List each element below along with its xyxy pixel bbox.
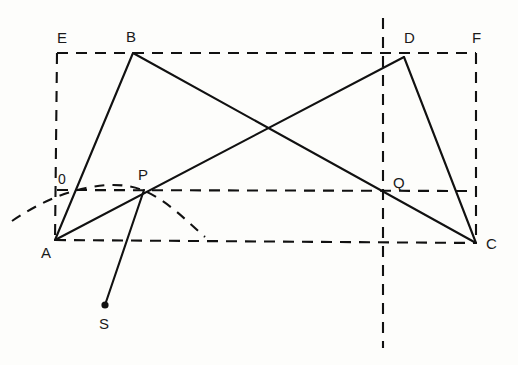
label-point-E: E	[57, 30, 67, 45]
solid-segment-AD	[55, 57, 404, 240]
dashed-midline-OPQ	[57, 190, 476, 191]
geometry-diagram	[0, 0, 518, 365]
label-point-S: S	[99, 316, 109, 331]
solid-segment-PS	[105, 190, 144, 305]
solid-segment-BC	[133, 53, 476, 243]
label-point-A: A	[41, 245, 51, 260]
solid-segment-DC	[404, 57, 476, 243]
figure-canvas: E B D F 0 P Q A C S	[0, 0, 518, 365]
point-marker-S	[101, 301, 108, 308]
label-point-P: P	[138, 167, 148, 182]
dashed-edge-left-EA	[55, 53, 57, 240]
solid-segment-AB	[55, 53, 133, 240]
label-point-F: F	[472, 30, 481, 45]
label-origin: 0	[58, 172, 66, 186]
label-point-D: D	[404, 30, 415, 45]
label-point-B: B	[126, 29, 136, 44]
label-point-Q: Q	[393, 175, 405, 190]
dashed-edge-bottom-AC	[55, 240, 476, 243]
label-point-C: C	[486, 236, 497, 251]
